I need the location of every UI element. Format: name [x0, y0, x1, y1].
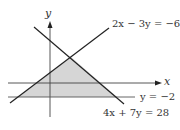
y-axis-label: y	[45, 8, 51, 19]
equation-label-line1: 2x − 3y = −6	[112, 19, 180, 29]
y-axis-arrow-icon	[48, 21, 53, 28]
equation-label-line2: 4x + 7y = 28	[103, 108, 169, 118]
x-axis-label: x	[164, 76, 170, 87]
x-axis-arrow-icon	[155, 81, 162, 86]
shaded-feasible-region	[18, 57, 117, 97]
equation-label-line3: y = −2	[140, 92, 175, 102]
